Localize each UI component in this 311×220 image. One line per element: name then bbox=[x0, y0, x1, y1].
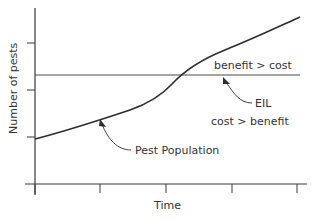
pest-population-pointer bbox=[102, 124, 131, 150]
cost-region-label: cost > benefit bbox=[211, 115, 289, 128]
eil-pointer bbox=[226, 82, 252, 103]
pest-population-label: Pest Population bbox=[135, 144, 219, 157]
y-axis-label: Number of pests bbox=[7, 42, 20, 134]
eil-label: EIL bbox=[255, 97, 272, 110]
arrow-head-icon bbox=[99, 119, 106, 127]
eil-diagram: benefit > cost cost > benefit EIL Pest P… bbox=[0, 0, 311, 220]
arrow-head-icon bbox=[223, 77, 230, 84]
x-axis-label: Time bbox=[153, 199, 181, 212]
benefit-region-label: benefit > cost bbox=[214, 59, 292, 72]
